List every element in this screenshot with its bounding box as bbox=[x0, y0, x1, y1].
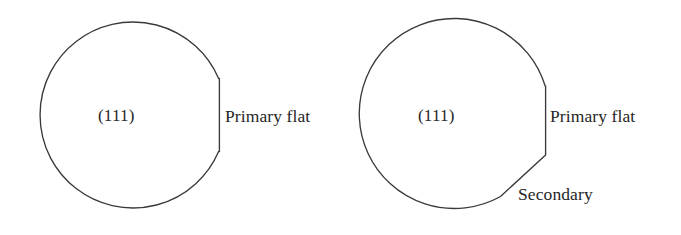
crystal-plane-label: (111) bbox=[418, 107, 455, 124]
secondary-flat-label: Secondary bbox=[518, 186, 593, 204]
wafer-figure-primary-only: (111) Primary flat bbox=[0, 0, 340, 235]
primary-flat-label: Primary flat bbox=[225, 108, 310, 126]
primary-flat-label: Primary flat bbox=[550, 108, 635, 126]
wafer-flat-diagram: (111) Primary flat (111) Primary flat Se… bbox=[0, 0, 681, 235]
crystal-plane-label: (111) bbox=[98, 107, 135, 124]
wafer-figure-primary-secondary: (111) Primary flat Secondary bbox=[340, 0, 681, 235]
